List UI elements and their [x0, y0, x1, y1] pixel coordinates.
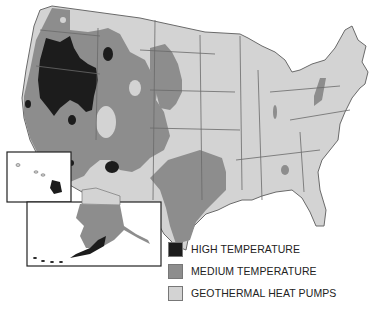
light-patch [96, 106, 116, 138]
light-patch [60, 17, 66, 23]
light-patch [129, 80, 141, 96]
medium-temperature-swatch [168, 264, 183, 279]
high-temperature-swatch [168, 242, 183, 257]
legend-label: MEDIUM TEMPERATURE [191, 265, 317, 277]
legend-item-heat-pumps: GEOTHERMAL HEAT PUMPS [168, 282, 336, 304]
high-temperature-spot [68, 115, 76, 125]
legend: HIGH TEMPERATURE MEDIUM TEMPERATURE GEOT… [168, 238, 336, 304]
legend-label: GEOTHERMAL HEAT PUMPS [191, 287, 336, 299]
high-temperature-yellowstone [103, 47, 113, 61]
legend-item-high: HIGH TEMPERATURE [168, 238, 336, 260]
medium-temperature-alabama [281, 165, 289, 175]
medium-temperature-indiana [273, 105, 277, 119]
high-temperature-spot [105, 161, 119, 173]
legend-item-medium: MEDIUM TEMPERATURE [168, 260, 336, 282]
heat-pumps-swatch [168, 286, 183, 301]
high-temperature-spot [25, 100, 31, 108]
hawaii-inset-frame [7, 152, 71, 202]
legend-label: HIGH TEMPERATURE [191, 243, 300, 255]
